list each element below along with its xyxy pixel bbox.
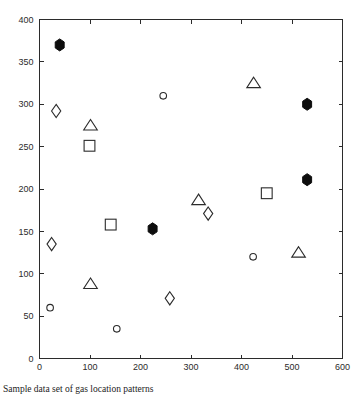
data-point-open-triangle	[247, 77, 261, 88]
y-axis-tick-label: 200	[18, 184, 33, 194]
series-open-diamond	[47, 104, 213, 304]
data-point-open-diamond	[165, 292, 174, 305]
series-open-circle	[47, 92, 257, 332]
series-open-square	[84, 140, 272, 230]
y-axis-tick-label: 150	[18, 227, 33, 237]
data-point-open-square	[84, 140, 95, 151]
data-point-filled-hexagon	[303, 174, 312, 186]
x-axis-tick-label: 0	[37, 362, 42, 372]
plot-frame	[40, 20, 343, 359]
data-marker-layer	[47, 39, 312, 332]
data-point-open-triangle	[84, 278, 98, 289]
y-axis-tick-label: 300	[18, 99, 33, 109]
data-point-open-diamond	[52, 104, 61, 117]
data-point-filled-hexagon	[303, 98, 312, 110]
axis-layer	[40, 20, 343, 359]
data-point-open-circle	[47, 304, 54, 311]
series-filled-hexagon	[55, 39, 311, 235]
data-point-open-square	[261, 188, 272, 199]
x-axis-tick-label: 100	[82, 362, 97, 372]
y-axis-tick-label: 0	[28, 354, 33, 364]
x-axis-tick-label: 600	[335, 362, 350, 372]
y-axis-tick-label: 50	[23, 311, 33, 321]
x-axis-tick-label: 500	[284, 362, 299, 372]
data-point-open-diamond	[47, 237, 56, 250]
scatter-plot: 0100200300400500600050100150200250300350…	[0, 0, 363, 397]
data-point-open-triangle	[84, 120, 98, 131]
series-open-triangle	[84, 77, 306, 288]
tick-label-layer: 0100200300400500600050100150200250300350…	[18, 15, 350, 372]
data-point-open-square	[105, 219, 116, 230]
data-point-filled-hexagon	[55, 39, 64, 51]
data-point-open-triangle	[292, 247, 306, 258]
data-point-filled-hexagon	[148, 223, 157, 235]
y-axis-tick-label: 350	[18, 57, 33, 67]
y-axis-tick-label: 400	[18, 15, 33, 25]
figure-container: 0100200300400500600050100150200250300350…	[0, 0, 363, 397]
y-axis-tick-label: 250	[18, 142, 33, 152]
data-point-open-diamond	[204, 207, 213, 220]
x-axis-tick-label: 300	[183, 362, 198, 372]
x-axis-tick-label: 400	[234, 362, 249, 372]
figure-caption: Sample data set of gas location patterns	[3, 383, 360, 395]
x-axis-tick-label: 200	[133, 362, 148, 372]
data-point-open-triangle	[192, 194, 206, 205]
data-point-open-circle	[113, 326, 120, 333]
y-axis-tick-label: 100	[18, 269, 33, 279]
data-point-open-circle	[160, 92, 167, 99]
data-point-open-circle	[250, 253, 257, 260]
